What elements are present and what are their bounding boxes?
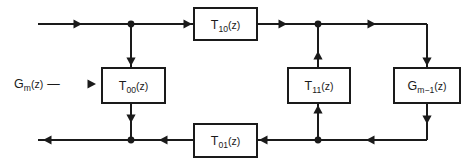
junction-top-left-junction: [128, 21, 135, 28]
block-t01: T01(z): [194, 124, 257, 157]
block-gm1: Gm−1(z): [394, 68, 460, 103]
arrow-t11-in: [313, 105, 322, 114]
arrow-gm1-out: [422, 116, 431, 125]
arrow-t10-in: [184, 19, 193, 28]
arrow-input-label: [88, 79, 97, 88]
arrow-top-input: [74, 19, 83, 28]
arrow-t00-out: [126, 115, 135, 124]
arrow-t01-in: [259, 135, 268, 144]
block-t00: T00(z): [102, 68, 165, 103]
diagram-canvas: T10(z)T00(z)T11(z)Gm−1(z)T01(z) Gm(z)—: [0, 0, 469, 168]
arrow-gm1-in: [422, 58, 431, 67]
arrow-bottom-output: [43, 135, 52, 144]
arrow-bottom-right: [366, 135, 375, 144]
junction-top-right-junction: [315, 21, 322, 28]
block-t10: T10(z): [194, 8, 257, 40]
block-t11: T11(z): [288, 68, 350, 103]
wires-group: [38, 24, 427, 140]
junction-bottom-left-junction: [128, 137, 135, 144]
input-signal-label: Gm(z)—: [14, 77, 60, 93]
junction-bottom-right-junction: [315, 137, 322, 144]
arrow-t00-in: [126, 58, 135, 67]
blocks-group: T10(z)T00(z)T11(z)Gm−1(z)T01(z): [102, 8, 460, 157]
arrow-t10-out: [279, 19, 288, 28]
labels-group: Gm(z)—: [14, 77, 60, 93]
arrow-t11-out: [313, 51, 322, 60]
arrow-t01-out: [159, 135, 168, 144]
signal-flow-diagram: T10(z)T00(z)T11(z)Gm−1(z)T01(z) Gm(z)—: [0, 0, 469, 168]
arrow-top-right: [368, 19, 377, 28]
